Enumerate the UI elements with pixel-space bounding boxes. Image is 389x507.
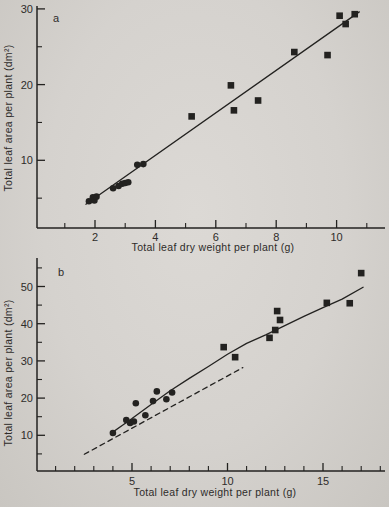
data-point-square (342, 21, 349, 28)
data-point-square (272, 327, 279, 334)
fit-line (86, 12, 359, 204)
y-tick-label: 10 (21, 154, 33, 166)
data-point-square (351, 11, 358, 18)
data-point-square (277, 317, 284, 324)
y-tick-label: 50 (21, 281, 33, 293)
data-point-square (231, 107, 238, 114)
data-point-square (358, 270, 365, 277)
panel-b-xaxis-title: Total leaf dry weight per plant (g) (134, 486, 297, 498)
data-point-square (346, 300, 353, 307)
data-point-circle (110, 430, 117, 437)
data-point-square (274, 308, 281, 315)
panel-a-letter: a (53, 12, 60, 24)
x-tick-label: 10 (330, 231, 342, 243)
panel-a-yaxis-title: Total leaf area per plant (dm²) (2, 44, 14, 191)
data-point-square (255, 97, 262, 104)
panel-b-yaxis-title: Total leaf area per plant (dm²) (2, 299, 14, 446)
panel-a-plot: 246810102030 (21, 3, 385, 243)
data-point-square (324, 300, 331, 307)
y-tick-label: 20 (21, 79, 33, 91)
data-point-circle (163, 396, 170, 403)
data-point-circle (142, 412, 149, 419)
two-panel-scatter-figure: 246810102030 510151020304050 a Total lea… (0, 0, 389, 507)
data-point-square (324, 52, 331, 59)
panel-b-letter: b (58, 266, 64, 278)
data-point-square (291, 49, 298, 56)
data-point-circle (169, 389, 176, 396)
data-point-square (336, 12, 343, 19)
data-point-square (188, 113, 195, 120)
data-point-square (266, 335, 273, 342)
data-point-square (220, 344, 227, 351)
data-point-circle (93, 193, 100, 200)
data-point-circle (154, 388, 161, 395)
data-point-circle (140, 161, 147, 168)
data-point-circle (150, 398, 157, 405)
dashed-reference-line (84, 368, 243, 455)
y-tick-label: 40 (21, 318, 33, 330)
panel-a-xaxis-title: Total leaf dry weight per plant (g) (132, 241, 295, 253)
y-tick-label: 30 (21, 3, 33, 15)
data-point-square (228, 82, 235, 89)
data-point-square (232, 354, 239, 361)
x-tick-label: 15 (317, 475, 329, 487)
data-point-circle (133, 400, 140, 407)
data-point-circle (125, 179, 132, 186)
y-tick-label: 20 (21, 392, 33, 404)
y-tick-label: 30 (21, 355, 33, 367)
data-point-circle (134, 162, 141, 169)
y-tick-label: 10 (21, 429, 33, 441)
panel-b-plot: 510151020304050 (21, 258, 385, 487)
data-point-circle (131, 418, 138, 425)
x-tick-label: 2 (92, 231, 98, 243)
